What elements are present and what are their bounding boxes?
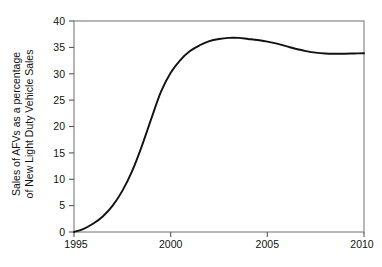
y-tick-label-30: 30 — [53, 68, 65, 80]
plot-area: 40 35 30 25 20 15 10 5 0 1995 2000 2005 … — [0, 0, 382, 267]
y-tick-label-10: 10 — [53, 173, 65, 185]
y-tick-label-15: 15 — [53, 147, 65, 159]
y-tick-label-20: 20 — [53, 120, 65, 132]
y-tick-labels: 40 35 30 25 20 15 10 5 0 — [53, 15, 65, 238]
y-tick-label-40: 40 — [53, 15, 65, 27]
x-tick-label-2010: 2010 — [350, 238, 374, 250]
y-tick-label-35: 35 — [53, 41, 65, 53]
x-tick-label-2005: 2005 — [256, 238, 280, 250]
y-tick-label-0: 0 — [59, 226, 65, 238]
chart-container: Sales of AFVs as a percentage of New Lig… — [0, 0, 382, 267]
x-tick-marks — [74, 232, 364, 237]
x-tick-label-2000: 2000 — [159, 238, 183, 250]
y-tick-label-25: 25 — [53, 94, 65, 106]
y-tick-label-5: 5 — [59, 199, 65, 211]
y-tick-marks — [69, 21, 74, 232]
x-tick-label-1995: 1995 — [64, 238, 88, 250]
x-tick-labels: 1995 2000 2005 2010 — [64, 238, 374, 250]
data-series-line — [74, 38, 364, 232]
